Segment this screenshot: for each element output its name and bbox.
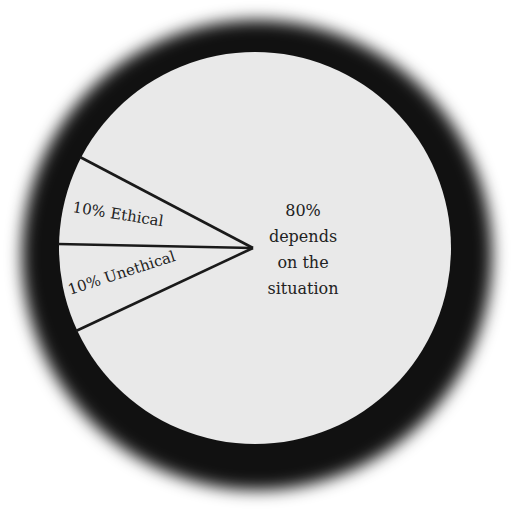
svg-text:80%: 80% — [285, 201, 321, 220]
pie-disc — [59, 52, 451, 444]
svg-text:on the: on the — [277, 253, 328, 272]
pie-chart: 10% Ethical 10% Unethical 80% depends on… — [0, 0, 511, 512]
svg-text:situation: situation — [267, 279, 338, 298]
svg-text:depends: depends — [269, 227, 337, 246]
pie-svg: 10% Ethical 10% Unethical 80% depends on… — [0, 0, 511, 512]
